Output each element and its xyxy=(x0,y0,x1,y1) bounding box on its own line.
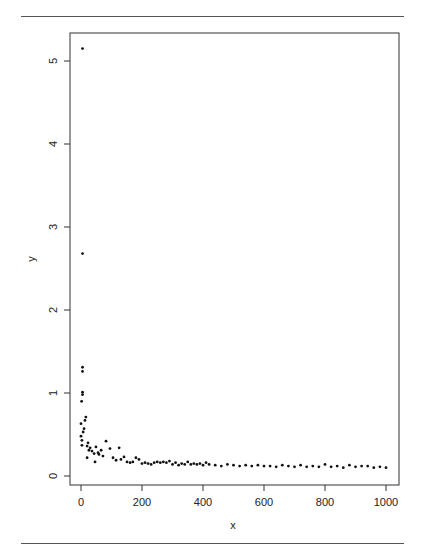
y-tick-label: 2 xyxy=(47,307,59,313)
data-point xyxy=(330,465,333,468)
data-point xyxy=(83,427,86,430)
data-point xyxy=(100,449,103,452)
data-point xyxy=(171,463,174,466)
data-point xyxy=(199,462,202,465)
data-point xyxy=(126,460,129,463)
data-point xyxy=(174,461,177,464)
data-point xyxy=(159,461,162,464)
data-point xyxy=(135,456,138,459)
data-point xyxy=(238,465,241,468)
data-point xyxy=(150,463,153,466)
x-tick-label: 600 xyxy=(255,496,273,508)
data-point xyxy=(109,447,112,450)
data-point xyxy=(360,465,363,468)
data-point xyxy=(168,460,171,463)
data-point xyxy=(123,456,126,459)
data-point xyxy=(366,465,369,468)
data-point xyxy=(112,456,115,459)
data-point xyxy=(129,461,132,464)
data-point xyxy=(80,422,83,425)
data-point xyxy=(84,416,87,419)
data-point xyxy=(81,370,84,373)
data-point xyxy=(202,464,205,467)
data-point xyxy=(82,431,85,434)
data-point xyxy=(305,465,308,468)
data-point xyxy=(153,461,156,464)
y-axis: 012345 xyxy=(47,58,70,479)
data-point xyxy=(91,450,94,453)
data-point xyxy=(372,466,375,469)
data-point xyxy=(118,446,121,449)
x-axis-label: x xyxy=(230,519,236,531)
data-point xyxy=(131,460,134,463)
data-point xyxy=(311,465,314,468)
x-tick-label: 0 xyxy=(78,496,84,508)
data-point xyxy=(263,465,266,468)
x-axis: 02004006008001000 xyxy=(78,485,398,508)
data-point xyxy=(80,400,83,403)
data-point xyxy=(95,446,98,449)
x-tick-label: 400 xyxy=(194,496,212,508)
data-point xyxy=(336,465,339,468)
data-point xyxy=(115,459,118,462)
y-tick-label: 1 xyxy=(47,390,59,396)
x-tick-label: 200 xyxy=(133,496,151,508)
data-point xyxy=(220,465,223,468)
data-point xyxy=(281,464,284,467)
data-point xyxy=(89,446,92,449)
data-point xyxy=(162,460,165,463)
data-point xyxy=(205,461,208,464)
data-point xyxy=(183,463,186,466)
data-point xyxy=(244,464,247,467)
data-point xyxy=(379,465,382,468)
scatter-plot: 02004006008001000 012345 x y xyxy=(0,0,421,550)
data-point xyxy=(81,252,84,255)
data-point xyxy=(196,463,199,466)
y-tick-label: 4 xyxy=(47,141,59,147)
data-point xyxy=(147,462,150,465)
data-point xyxy=(299,464,302,467)
data-point xyxy=(81,444,84,447)
data-point xyxy=(84,419,87,422)
data-point xyxy=(318,465,321,468)
y-tick-label: 3 xyxy=(47,224,59,230)
data-point xyxy=(81,47,84,50)
data-point xyxy=(87,441,90,444)
data-point xyxy=(324,463,327,466)
data-point xyxy=(385,466,388,469)
data-point xyxy=(269,465,272,468)
data-point xyxy=(287,465,290,468)
data-point xyxy=(354,465,357,468)
plot-frame xyxy=(70,33,399,485)
data-point xyxy=(94,460,97,463)
data-point xyxy=(165,461,168,464)
data-point xyxy=(189,463,192,466)
data-point xyxy=(86,445,89,448)
data-point xyxy=(88,449,91,452)
data-point xyxy=(348,464,351,467)
data-point xyxy=(180,462,183,465)
data-point xyxy=(105,440,108,443)
data-point xyxy=(93,452,96,455)
data-point xyxy=(81,439,84,442)
data-point xyxy=(226,463,229,466)
data-point xyxy=(214,464,217,467)
data-point xyxy=(138,458,141,461)
data-point xyxy=(80,435,83,438)
x-tick-label: 1000 xyxy=(374,496,398,508)
data-point xyxy=(342,466,345,469)
data-point xyxy=(141,462,144,465)
data-point xyxy=(81,366,84,369)
data-point xyxy=(144,461,147,464)
data-point xyxy=(102,455,105,458)
data-point xyxy=(120,458,123,461)
data-point xyxy=(257,464,260,467)
data-point xyxy=(232,464,235,467)
data-point xyxy=(98,453,101,456)
y-tick-label: 5 xyxy=(47,58,59,64)
data-point xyxy=(192,462,195,465)
x-tick-label: 800 xyxy=(316,496,334,508)
data-point xyxy=(293,465,296,468)
data-point xyxy=(86,456,89,459)
data-point xyxy=(177,464,180,467)
